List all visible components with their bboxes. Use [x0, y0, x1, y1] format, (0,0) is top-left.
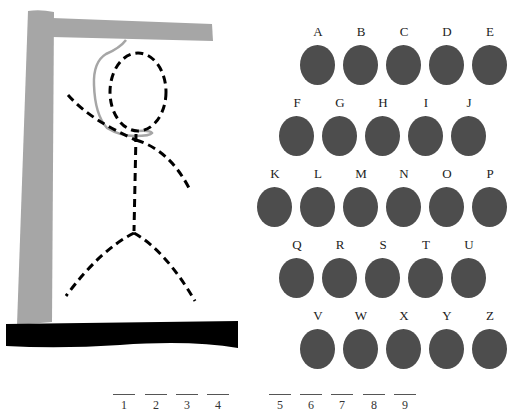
letter-disc[interactable]: [408, 258, 443, 298]
letter-button-e[interactable]: E: [472, 25, 508, 87]
letter-label: A: [300, 25, 336, 39]
gallows: [0, 0, 250, 360]
letter-label: V: [300, 309, 336, 323]
letter-disc[interactable]: [257, 187, 292, 227]
gallows-post: [17, 10, 54, 325]
letter-slot: 2: [145, 394, 167, 412]
letter-disc[interactable]: [386, 329, 421, 369]
letter-label: L: [300, 167, 336, 181]
letter-disc[interactable]: [279, 116, 314, 156]
hanged-figure: [66, 53, 195, 301]
letter-disc[interactable]: [429, 329, 464, 369]
slot-blank: [269, 394, 291, 395]
letter-button-p[interactable]: P: [472, 167, 508, 229]
letter-button-n[interactable]: N: [386, 167, 422, 229]
letter-button-s[interactable]: S: [365, 238, 401, 300]
letter-button-q[interactable]: Q: [279, 238, 315, 300]
letter-label: P: [472, 167, 508, 181]
letter-button-g[interactable]: G: [322, 96, 358, 158]
letter-label: I: [408, 96, 444, 110]
letter-button-j[interactable]: J: [451, 96, 487, 158]
letter-slot: 5: [269, 394, 291, 412]
letter-button-k[interactable]: K: [257, 167, 293, 229]
letter-label: F: [279, 96, 315, 110]
slot-number: 8: [363, 399, 385, 412]
letter-button-h[interactable]: H: [365, 96, 401, 158]
figure-head: [110, 53, 166, 131]
letter-disc[interactable]: [408, 116, 443, 156]
slot-number: 5: [269, 399, 291, 412]
letter-label: Y: [429, 309, 465, 323]
figure-body: [134, 134, 136, 231]
slot-blank: [207, 394, 229, 395]
slot-number: 6: [300, 399, 322, 412]
letter-button-z[interactable]: Z: [472, 309, 508, 371]
letter-button-w[interactable]: W: [343, 309, 379, 371]
slot-blank: [363, 394, 385, 395]
slot-number: 7: [331, 399, 353, 412]
slot-blank: [176, 394, 198, 395]
letter-disc[interactable]: [343, 187, 378, 227]
slot-blank: [300, 394, 322, 395]
slot-blank: [394, 394, 416, 395]
letter-disc[interactable]: [472, 329, 507, 369]
letter-disc[interactable]: [472, 45, 507, 85]
letter-button-d[interactable]: D: [429, 25, 465, 87]
letter-button-o[interactable]: O: [429, 167, 465, 229]
letter-button-t[interactable]: T: [408, 238, 444, 300]
letter-button-l[interactable]: L: [300, 167, 336, 229]
letter-slot: 4: [207, 394, 229, 412]
letter-disc[interactable]: [300, 187, 335, 227]
letter-label: N: [386, 167, 422, 181]
figure-right-leg: [134, 233, 195, 301]
letter-disc[interactable]: [386, 187, 421, 227]
letter-button-b[interactable]: B: [343, 25, 379, 87]
letter-disc[interactable]: [365, 258, 400, 298]
letter-button-y[interactable]: Y: [429, 309, 465, 371]
letter-disc[interactable]: [300, 45, 335, 85]
letter-button-m[interactable]: M: [343, 167, 379, 229]
gallows-beam: [52, 18, 213, 41]
letter-label: B: [343, 25, 379, 39]
letter-button-f[interactable]: F: [279, 96, 315, 158]
letter-disc[interactable]: [429, 187, 464, 227]
figure-left-leg: [66, 233, 134, 296]
slot-number: 9: [394, 399, 416, 412]
letter-disc[interactable]: [279, 258, 314, 298]
letter-disc[interactable]: [322, 258, 357, 298]
letter-slot: 1: [113, 394, 135, 412]
letter-disc[interactable]: [322, 116, 357, 156]
letter-disc[interactable]: [451, 258, 486, 298]
letter-disc[interactable]: [429, 45, 464, 85]
figure-right-arm: [136, 140, 190, 190]
letter-label: W: [343, 309, 379, 323]
slot-blank: [145, 394, 167, 395]
letter-disc[interactable]: [365, 116, 400, 156]
letter-disc[interactable]: [451, 116, 486, 156]
letter-label: T: [408, 238, 444, 252]
letter-disc[interactable]: [472, 187, 507, 227]
slot-number: 4: [207, 399, 229, 412]
letter-button-u[interactable]: U: [451, 238, 487, 300]
letter-label: E: [472, 25, 508, 39]
letter-button-x[interactable]: X: [386, 309, 422, 371]
letter-slot: 6: [300, 394, 322, 412]
letter-button-i[interactable]: I: [408, 96, 444, 158]
letter-label: C: [386, 25, 422, 39]
letter-label: Z: [472, 309, 508, 323]
letter-disc[interactable]: [300, 329, 335, 369]
letter-button-c[interactable]: C: [386, 25, 422, 87]
letter-button-r[interactable]: R: [322, 238, 358, 300]
slot-number: 3: [176, 399, 198, 412]
letter-button-a[interactable]: A: [300, 25, 336, 87]
letter-label: U: [451, 238, 487, 252]
letter-button-v[interactable]: V: [300, 309, 336, 371]
letter-disc[interactable]: [343, 329, 378, 369]
letter-disc[interactable]: [343, 45, 378, 85]
letter-disc[interactable]: [386, 45, 421, 85]
letter-slot: 3: [176, 394, 198, 412]
slot-blank: [113, 394, 135, 395]
letter-label: X: [386, 309, 422, 323]
letter-label: H: [365, 96, 401, 110]
letter-label: K: [257, 167, 293, 181]
